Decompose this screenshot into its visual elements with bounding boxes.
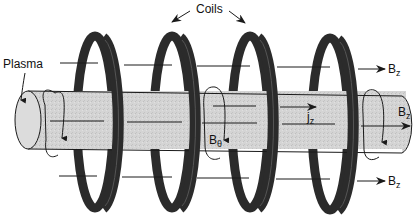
jz-label: jz — [307, 110, 314, 126]
btheta-label: Bθ — [209, 133, 222, 149]
bz-axis-main: B — [398, 105, 406, 119]
plasma-label: Plasma — [3, 57, 43, 71]
btheta-main: B — [209, 133, 217, 147]
bz-axis-sub: z — [406, 111, 411, 121]
bz-axis-label: Bz — [398, 105, 411, 121]
bz-bottom-main: B — [388, 174, 396, 188]
btheta-sub: θ — [217, 139, 222, 149]
bz-top-main: B — [388, 62, 396, 76]
plasma-coil-diagram — [0, 0, 418, 215]
jz-sub: z — [310, 116, 315, 126]
bz-top-sub: z — [396, 68, 401, 78]
coils-label: Coils — [196, 2, 223, 16]
bz-top-label: Bz — [388, 62, 401, 78]
bz-bottom-label: Bz — [388, 174, 401, 190]
bz-bottom-sub: z — [396, 180, 401, 190]
